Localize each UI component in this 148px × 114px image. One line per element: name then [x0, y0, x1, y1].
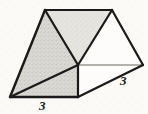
geometry-figure: 3 3 [0, 0, 148, 114]
right-length-label: 3 [120, 74, 127, 87]
base-length-label: 3 [39, 99, 46, 112]
prism-drawing [0, 0, 148, 114]
